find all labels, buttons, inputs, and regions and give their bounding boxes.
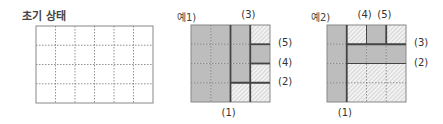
cell-hatched — [231, 83, 251, 102]
cut-label: (1) — [338, 107, 352, 118]
cell-empty — [75, 45, 95, 64]
cut-label: (1) — [222, 107, 236, 118]
cell-gray — [211, 25, 231, 44]
cell-hatched — [367, 83, 387, 102]
cell-empty — [95, 84, 115, 103]
cell-gray — [347, 44, 367, 63]
cell-gray — [250, 44, 270, 63]
cell-hatched — [347, 25, 367, 44]
cell-empty — [114, 26, 134, 45]
cell-empty — [56, 26, 76, 45]
cell-hatched — [250, 25, 270, 44]
cut-label: (4) — [358, 9, 372, 20]
cell-hatched — [386, 25, 406, 44]
cell-empty — [134, 84, 154, 103]
cell-empty — [95, 65, 115, 84]
cut-label: (2) — [414, 57, 428, 68]
cut-label: (5) — [377, 9, 391, 20]
cell-hatched — [386, 83, 406, 102]
cell-empty — [56, 65, 76, 84]
cell-empty — [36, 84, 56, 103]
cell-gray — [231, 64, 251, 83]
cell-empty — [114, 65, 134, 84]
cell-hatched — [250, 64, 270, 83]
cell-empty — [75, 65, 95, 84]
cell-empty — [36, 45, 56, 64]
cell-empty — [95, 45, 115, 64]
cell-gray — [231, 25, 251, 44]
cell-gray — [367, 25, 387, 44]
cell-gray — [327, 25, 347, 44]
cell-gray — [211, 64, 231, 83]
cut-label: (2) — [278, 76, 292, 87]
cell-gray — [191, 25, 211, 44]
cell-gray — [231, 44, 251, 63]
cell-hatched — [386, 64, 406, 83]
cell-gray — [211, 44, 231, 63]
cell-gray — [191, 44, 211, 63]
cell-empty — [56, 84, 76, 103]
cell-hatched — [367, 64, 387, 83]
cell-empty — [75, 26, 95, 45]
cell-gray — [367, 44, 387, 63]
cell-gray — [191, 83, 211, 102]
cell-empty — [134, 65, 154, 84]
cell-gray — [327, 44, 347, 63]
cell-empty — [114, 84, 134, 103]
cell-empty — [134, 26, 154, 45]
cell-gray — [211, 83, 231, 102]
cell-hatched — [347, 83, 367, 102]
cut-label: (3) — [414, 37, 428, 48]
cut-label: (4) — [278, 57, 292, 68]
cell-empty — [56, 45, 76, 64]
cell-hatched — [347, 64, 367, 83]
cell-gray — [327, 83, 347, 102]
cell-empty — [75, 84, 95, 103]
cut-label: (5) — [278, 37, 292, 48]
cell-gray — [327, 64, 347, 83]
cut-label: (3) — [241, 9, 255, 20]
cell-empty — [95, 26, 115, 45]
cell-empty — [36, 65, 56, 84]
cell-gray — [191, 64, 211, 83]
cell-empty — [36, 26, 56, 45]
cell-empty — [134, 45, 154, 64]
cell-hatched — [250, 83, 270, 102]
cell-empty — [114, 45, 134, 64]
cell-gray — [386, 44, 406, 63]
